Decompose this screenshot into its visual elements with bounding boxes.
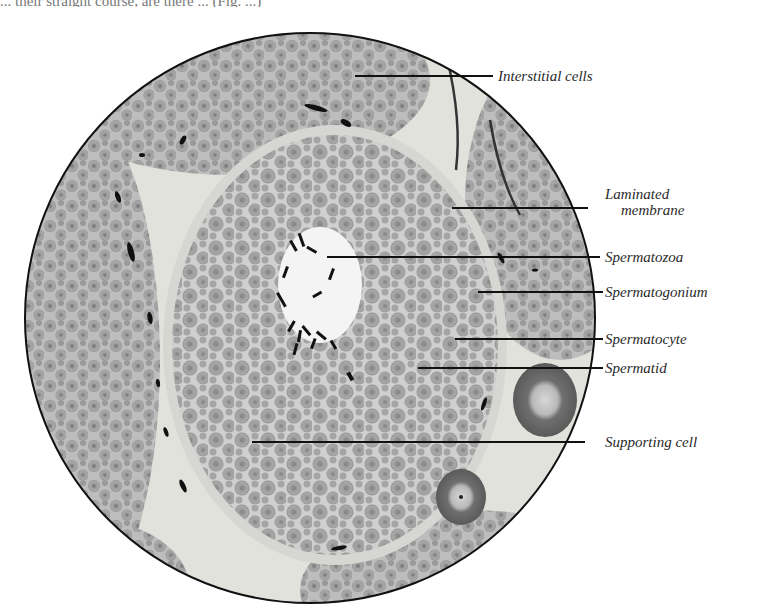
label-spermatid: Spermatid bbox=[605, 360, 667, 376]
tissue-field bbox=[0, 0, 769, 616]
label-laminated-membrane-line1: Laminated bbox=[605, 186, 669, 202]
tubule-cross-section-figure bbox=[0, 0, 769, 616]
label-laminated-membrane-line2: membrane bbox=[605, 202, 684, 218]
label-spermatocyte: Spermatocyte bbox=[605, 331, 687, 347]
label-laminated-membrane: Laminated membrane bbox=[605, 186, 684, 218]
label-spermatogonium: Spermatogonium bbox=[605, 284, 708, 300]
interstitial-cell-ring-large bbox=[513, 363, 577, 437]
label-spermatozoa: Spermatozoa bbox=[605, 249, 683, 265]
label-supporting-cell: Supporting cell bbox=[605, 434, 697, 450]
label-interstitial-cells: Interstitial cells bbox=[498, 68, 593, 84]
